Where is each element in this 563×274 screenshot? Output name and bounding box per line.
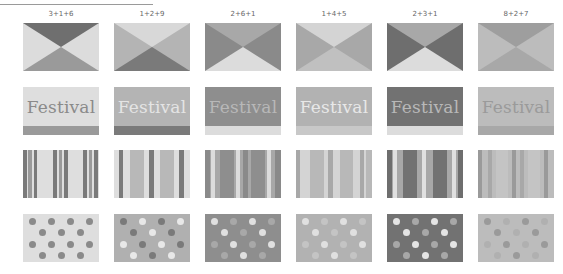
polka-dot	[268, 241, 275, 248]
polka-dot	[393, 218, 400, 225]
stripe	[34, 150, 37, 198]
festival-swatch: Festival	[114, 87, 190, 135]
polka-dot	[359, 218, 366, 225]
stripe	[328, 150, 333, 198]
variant-label: 2+6+1	[205, 10, 281, 18]
stripe	[403, 150, 417, 198]
stripe	[211, 150, 215, 198]
dots-swatch	[387, 214, 463, 262]
stripe	[544, 150, 548, 198]
triangle-swatch	[23, 23, 99, 71]
polka-dot	[302, 218, 309, 225]
polka-dot	[431, 241, 438, 248]
stripe	[205, 150, 210, 198]
variant-label: 1+2+9	[114, 10, 190, 18]
polka-dot	[412, 218, 419, 225]
festival-band	[296, 126, 372, 135]
polka-dot	[331, 252, 338, 259]
stripe	[220, 150, 234, 198]
stripe	[387, 150, 392, 198]
stripe	[520, 150, 524, 198]
polka-dot	[441, 252, 448, 259]
polka-dot	[158, 218, 165, 225]
polka-dot	[312, 252, 319, 259]
stripes-swatch	[114, 150, 190, 198]
polka-dot	[321, 241, 328, 248]
stripe	[452, 150, 456, 198]
festival-swatch: Festival	[23, 87, 99, 135]
polka-dot	[86, 218, 93, 225]
triangle-swatch	[478, 23, 554, 71]
festival-swatch: Festival	[296, 87, 372, 135]
polka-dot	[249, 218, 256, 225]
stripe	[433, 150, 447, 198]
variant-label: 1+4+5	[296, 10, 372, 18]
polka-dot	[403, 252, 410, 259]
polka-dot	[494, 229, 501, 236]
stripe	[512, 150, 516, 198]
variant-label: 8+2+7	[478, 10, 554, 18]
stripes-swatch	[23, 150, 99, 198]
festival-text: Festival	[23, 97, 99, 117]
polka-dot	[221, 229, 228, 236]
polka-dot	[494, 252, 501, 259]
stripe	[149, 150, 154, 198]
polka-dot	[39, 229, 46, 236]
stripe	[340, 150, 353, 198]
polka-dot	[350, 229, 357, 236]
stripe	[267, 150, 271, 198]
festival-swatch: Festival	[205, 87, 281, 135]
polka-dot	[120, 218, 127, 225]
polka-dot	[221, 252, 228, 259]
polka-dot	[503, 241, 510, 248]
polka-dot	[422, 229, 429, 236]
variant-label: 2+3+1	[387, 10, 463, 18]
polka-dot	[513, 229, 520, 236]
polka-dot	[249, 241, 256, 248]
polka-dot	[29, 241, 36, 248]
festival-text: Festival	[205, 97, 281, 117]
stripe	[393, 150, 397, 198]
polka-dot	[168, 229, 175, 236]
polka-dot	[450, 241, 457, 248]
dots-swatch	[23, 214, 99, 262]
festival-band	[478, 126, 554, 135]
triangle-swatch	[387, 23, 463, 71]
polka-dot	[513, 252, 520, 259]
variant-label: 3+1+6	[23, 10, 99, 18]
festival-band	[205, 126, 281, 135]
polka-dot	[321, 218, 328, 225]
stripe	[160, 150, 174, 198]
polka-dot	[139, 241, 146, 248]
stripe	[28, 150, 32, 198]
stripe	[83, 150, 87, 198]
polka-dot	[130, 229, 137, 236]
stripe	[366, 150, 372, 198]
polka-dot	[441, 229, 448, 236]
dots-swatch	[114, 214, 190, 262]
triangle-swatch	[296, 23, 372, 71]
festival-swatch: Festival	[478, 87, 554, 135]
polka-dot	[240, 229, 247, 236]
polka-dot	[268, 218, 275, 225]
polka-dot	[240, 252, 247, 259]
dots-swatch	[296, 214, 372, 262]
triangle-swatch	[114, 23, 190, 71]
polka-dot	[149, 252, 156, 259]
dots-swatch	[478, 214, 554, 262]
polka-dot	[312, 229, 319, 236]
festival-band	[23, 126, 99, 135]
polka-dot	[259, 229, 266, 236]
stripes-swatch	[205, 150, 281, 198]
polka-dot	[177, 241, 184, 248]
festival-band	[387, 126, 463, 135]
polka-dot	[484, 218, 491, 225]
polka-dot	[48, 241, 55, 248]
stripe	[236, 150, 240, 198]
triangle-swatch	[205, 23, 281, 71]
festival-band	[114, 126, 190, 135]
polka-dot	[48, 218, 55, 225]
stripe	[296, 150, 300, 198]
polka-dot	[350, 252, 357, 259]
polka-dot	[422, 252, 429, 259]
